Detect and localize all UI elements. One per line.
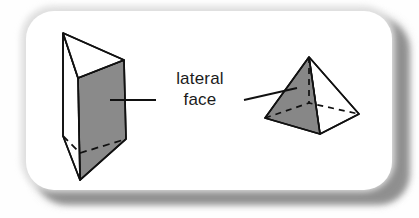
prism-lateral-face-shaded xyxy=(78,60,126,180)
triangular-prism xyxy=(63,33,126,180)
square-pyramid xyxy=(265,57,359,134)
lateral-face-label: lateral face xyxy=(158,68,242,110)
lateral-face-label-line2: face xyxy=(158,89,242,110)
diagram-stage: lateral face xyxy=(0,0,419,218)
lateral-face-label-line1: lateral xyxy=(158,68,242,89)
